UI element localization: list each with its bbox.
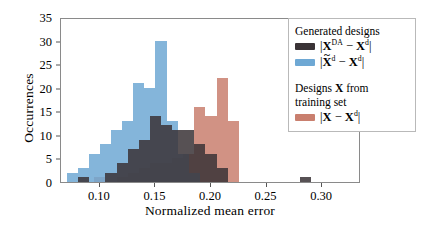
histogram-bar	[183, 130, 194, 182]
legend-title-line2: training set	[295, 96, 346, 108]
histogram-bar	[205, 154, 216, 182]
legend-swatch-blue	[295, 59, 315, 66]
x-axis: 0.100.150.200.250.30	[60, 183, 360, 205]
x-tick-mark	[154, 183, 155, 187]
x-tick-label: 0.15	[144, 190, 166, 203]
histogram-bar	[128, 149, 139, 182]
legend-swatch-red	[295, 114, 315, 121]
legend: Generated designs |XDA − Xd| |Xd − Xd| D…	[288, 18, 416, 132]
histogram-bar	[194, 144, 205, 182]
y-axis-label: Occurrences	[21, 33, 37, 183]
legend-group-title-2: Designs X fromtraining set	[295, 81, 409, 109]
y-tick-label: 20	[40, 82, 53, 95]
legend-swatch-dark	[295, 43, 315, 50]
x-tick-label: 0.10	[88, 190, 110, 203]
histogram-bar	[161, 125, 172, 182]
x-tick-label: 0.20	[199, 190, 221, 203]
histogram-bar	[105, 173, 116, 182]
x-axis-label: Normalized mean error	[60, 203, 360, 219]
legend-item-xtilde: |Xd − Xd|	[295, 55, 409, 70]
histogram-figure: 35 30 25 20 15 10 5 0 Occurrences 0.100.…	[0, 0, 424, 228]
legend-label-xtilde: |Xd − Xd|	[320, 55, 364, 70]
histogram-bar	[217, 78, 228, 182]
legend-item-training: |X − Xd|	[295, 110, 409, 125]
x-tick-label: 0.30	[310, 190, 332, 203]
x-tick-label: 0.25	[255, 190, 277, 203]
histogram-bar	[139, 140, 150, 182]
histogram-bar	[78, 177, 89, 182]
legend-group-generated: Generated designs |XDA − Xd| |Xd − Xd|	[295, 24, 409, 70]
y-tick-label: 5	[46, 153, 52, 166]
y-tick-label: 35	[40, 12, 53, 25]
legend-spacer	[295, 70, 409, 81]
y-tick-label: 15	[40, 106, 53, 119]
y-tick-label: 25	[40, 59, 53, 72]
legend-group-title: Generated designs	[295, 24, 409, 38]
histogram-bar	[117, 163, 128, 182]
histogram-bar	[67, 173, 78, 182]
histogram-bar	[89, 154, 100, 182]
histogram-bar	[150, 116, 161, 182]
legend-group-training: Designs X fromtraining set |X − Xd|	[295, 81, 409, 125]
legend-title-pre: Designs	[295, 82, 335, 94]
x-tick-mark	[210, 183, 211, 187]
x-tick-mark	[99, 183, 100, 187]
histogram-bar	[217, 168, 228, 182]
histogram-bar	[300, 177, 311, 182]
y-tick-label: 10	[40, 130, 53, 143]
legend-title-bold-x: X	[335, 82, 343, 94]
legend-title-post: from	[343, 82, 368, 94]
x-tick-mark	[321, 183, 322, 187]
y-tick-label: 30	[40, 35, 53, 48]
y-tick-label: 0	[46, 177, 52, 190]
histogram-bar	[172, 130, 183, 182]
x-tick-mark	[266, 183, 267, 187]
histogram-bar	[228, 121, 239, 182]
legend-item-da: |XDA − Xd|	[295, 39, 409, 54]
legend-label-training: |X − Xd|	[320, 110, 360, 125]
